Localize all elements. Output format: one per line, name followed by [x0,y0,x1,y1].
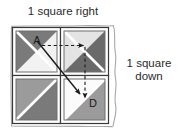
cell-bottom-left [16,79,57,120]
label-point-d: D [89,97,97,109]
translation-diagram: 1 square right 1 square down [0,0,182,138]
label-point-a: A [33,34,41,46]
cell-bottom-right [64,79,105,120]
grid-graphic: A D [0,0,182,138]
